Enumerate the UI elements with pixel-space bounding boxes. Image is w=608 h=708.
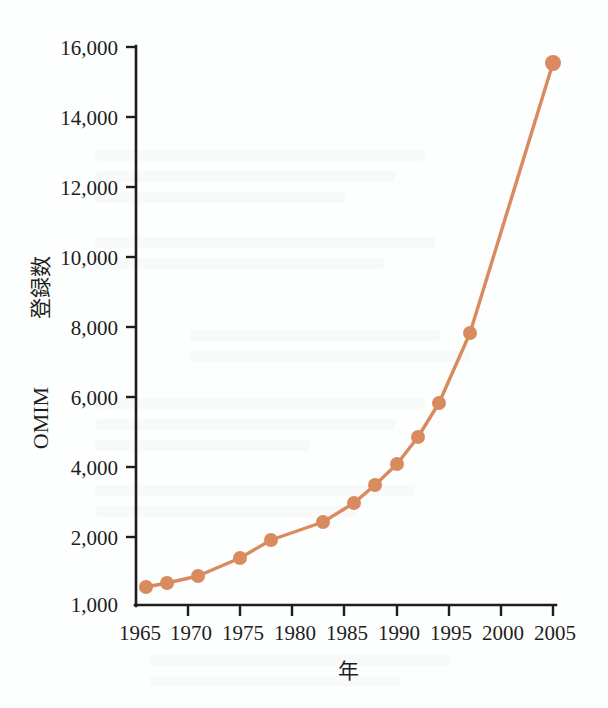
x-tick-label-1985: 1985 bbox=[326, 621, 368, 645]
line-chart: 16,000 14,000 12,000 10,000 8,000 6,000 … bbox=[0, 0, 608, 708]
y-tick-label-4000: 4,000 bbox=[71, 456, 118, 480]
data-point bbox=[191, 569, 205, 583]
data-point bbox=[316, 515, 330, 529]
data-point bbox=[368, 478, 382, 492]
figure-root: 16,000 14,000 12,000 10,000 8,000 6,000 … bbox=[0, 0, 608, 708]
data-point bbox=[347, 496, 361, 510]
y-tick-label-6000: 6,000 bbox=[71, 386, 118, 410]
x-axis-title: 年 bbox=[338, 659, 359, 683]
x-axis-ticks bbox=[188, 605, 553, 616]
y-tick-label-12000: 12,000 bbox=[60, 176, 118, 200]
data-point bbox=[139, 580, 153, 594]
data-point bbox=[233, 551, 247, 565]
data-point bbox=[432, 396, 446, 410]
y-tick-label-8000: 8,000 bbox=[71, 316, 118, 340]
x-tick-label-1990: 1990 bbox=[378, 621, 420, 645]
data-point bbox=[160, 576, 174, 590]
y-tick-label-16000: 16,000 bbox=[60, 36, 118, 60]
y-tick-label-2000: 2,000 bbox=[71, 526, 118, 550]
x-tick-label-1970: 1970 bbox=[170, 621, 212, 645]
series-line bbox=[146, 63, 553, 587]
data-point bbox=[463, 326, 477, 340]
x-tick-label-1965: 1965 bbox=[119, 621, 161, 645]
y-tick-label-1000: 1,000 bbox=[71, 593, 118, 617]
data-point bbox=[411, 430, 425, 444]
y-axis-title-latin: OMIM bbox=[28, 387, 53, 449]
x-tick-label-1995: 1995 bbox=[430, 621, 472, 645]
data-point bbox=[390, 457, 404, 471]
y-axis-title-cjk: 登録数 bbox=[29, 256, 53, 319]
x-tick-label-1980: 1980 bbox=[274, 621, 316, 645]
y-axis-ticks bbox=[126, 47, 136, 537]
series-markers bbox=[139, 55, 561, 594]
x-tick-label-2005: 2005 bbox=[534, 621, 576, 645]
data-point bbox=[545, 55, 561, 71]
data-series-omim-entries bbox=[139, 55, 561, 594]
x-tick-label-1975: 1975 bbox=[222, 621, 264, 645]
data-point bbox=[264, 533, 278, 547]
y-tick-label-10000: 10,000 bbox=[60, 246, 118, 270]
y-tick-label-14000: 14,000 bbox=[60, 106, 118, 130]
x-tick-label-2000: 2000 bbox=[482, 621, 524, 645]
